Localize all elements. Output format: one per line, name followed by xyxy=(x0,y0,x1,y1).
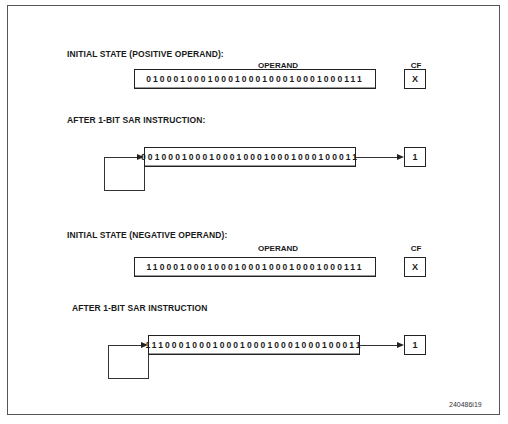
carry-flag-box: X xyxy=(404,69,426,89)
carry-flag-box: X xyxy=(404,257,426,277)
operand-register: 11100010001000100010001000100011 xyxy=(148,335,360,355)
feedback-line xyxy=(104,157,105,190)
operand-register: 11000100010001000100010001000111 xyxy=(134,257,376,277)
section-title-after-sar-positive: AFTER 1-BIT SAR INSTRUCTION: xyxy=(67,115,205,125)
feedback-line xyxy=(104,190,144,191)
operand-register: 00100010001000100010001000100011 xyxy=(144,147,356,167)
feedback-line xyxy=(148,355,149,379)
carry-flag-box: 1 xyxy=(404,335,426,355)
operand-register: 01000100010001000100010001000111 xyxy=(134,69,376,89)
feedback-line xyxy=(144,167,145,191)
arrow-right-icon xyxy=(397,342,404,348)
cf-header: CF xyxy=(405,244,427,253)
figure-id: 240486i19 xyxy=(449,401,482,408)
section-title-initial-positive: INITIAL STATE (POSITIVE OPERAND): xyxy=(67,49,224,59)
shift-out-line xyxy=(360,345,397,346)
carry-flag-box: 1 xyxy=(404,147,426,167)
arrow-right-icon xyxy=(397,154,404,160)
feedback-line xyxy=(108,345,109,378)
feedback-line xyxy=(108,378,148,379)
section-title-after-sar-negative: AFTER 1-BIT SAR INSTRUCTION xyxy=(72,303,207,313)
feedback-line xyxy=(108,345,141,346)
section-title-initial-negative: INITIAL STATE (NEGATIVE OPERAND): xyxy=(67,230,227,240)
shift-out-line xyxy=(356,157,397,158)
arrow-right-icon xyxy=(141,342,148,348)
operand-header: OPERAND xyxy=(238,244,318,253)
feedback-line xyxy=(104,157,137,158)
arrow-right-icon xyxy=(137,154,144,160)
